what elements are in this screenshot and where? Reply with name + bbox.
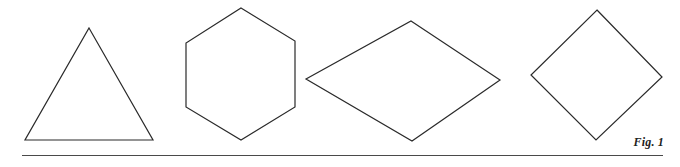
rhombus-shape: [306, 21, 500, 141]
square-shape: [531, 10, 662, 140]
figure-caption: Fig. 1: [633, 135, 664, 150]
triangle-shape: [25, 28, 153, 140]
shapes-canvas: [0, 0, 680, 167]
hexagon-shape: [186, 8, 295, 140]
geometric-shapes-figure: Fig. 1: [0, 0, 680, 167]
horizontal-rule: [22, 155, 663, 156]
